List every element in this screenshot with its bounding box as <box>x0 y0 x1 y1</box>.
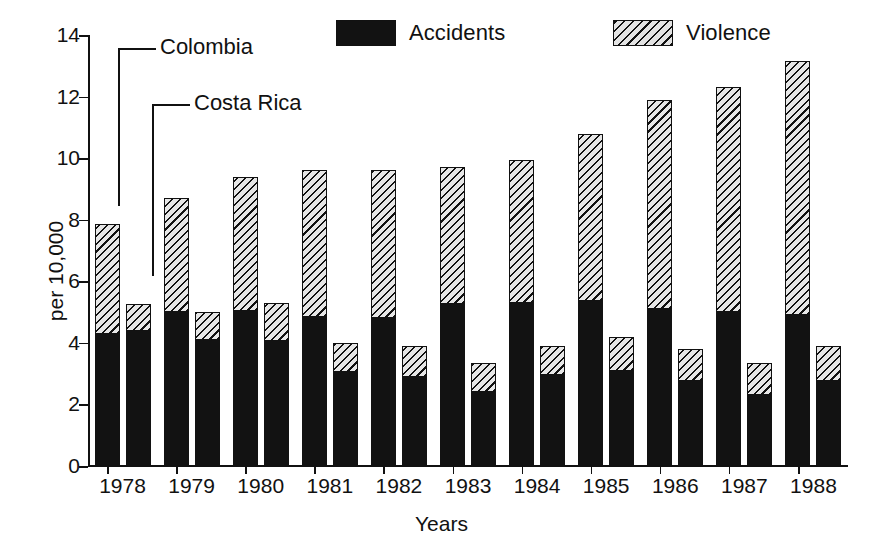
y-tick-label: 10 <box>57 146 80 170</box>
y-tick-label: 6 <box>68 269 80 293</box>
bar-costa-rica-1979 <box>195 312 220 466</box>
bar-segment-accidents <box>716 312 741 466</box>
x-tick-mark-1987 <box>729 466 731 474</box>
x-tick-mark-1981 <box>314 466 316 474</box>
bar-costa-rica-1987 <box>747 363 772 466</box>
x-tick-mark-1986 <box>660 466 662 474</box>
bar-segment-violence <box>578 134 603 302</box>
bar-costa-rica-1982 <box>402 346 427 466</box>
x-tick-mark-1984 <box>522 466 524 474</box>
x-tick-label-1983: 1983 <box>445 474 492 498</box>
bar-segment-violence <box>785 61 810 315</box>
bar-segment-accidents <box>540 375 565 466</box>
bar-segment-violence <box>233 177 258 311</box>
x-tick-label-1984: 1984 <box>514 474 561 498</box>
x-tick-mark-1978 <box>107 466 109 474</box>
bar-segment-violence <box>164 198 189 312</box>
bar-segment-accidents <box>195 340 220 466</box>
bar-segment-accidents <box>302 317 327 466</box>
bar-segment-accidents <box>233 311 258 466</box>
y-tick-mark <box>79 404 88 406</box>
bar-segment-violence <box>126 304 151 330</box>
x-tick-label-1986: 1986 <box>652 474 699 498</box>
bar-segment-violence <box>471 363 496 392</box>
bar-colombia-1988 <box>785 61 810 466</box>
x-tick-label-1988: 1988 <box>790 474 837 498</box>
y-tick-mark <box>79 35 88 37</box>
bar-segment-accidents <box>816 381 841 466</box>
y-tick-mark <box>79 220 88 222</box>
bar-colombia-1979 <box>164 198 189 466</box>
bar-segment-violence <box>302 170 327 316</box>
bar-segment-violence <box>333 343 358 372</box>
x-tick-mark-1982 <box>383 466 385 474</box>
bar-segment-accidents <box>440 304 465 466</box>
bar-segment-violence <box>609 337 634 371</box>
y-axis-title: per 10,000 <box>44 220 68 320</box>
bar-costa-rica-1984 <box>540 346 565 466</box>
bar-colombia-1978 <box>95 224 120 466</box>
annotation-costa-rica-leader-vertical <box>152 104 154 276</box>
x-tick-mark-1985 <box>591 466 593 474</box>
y-tick-label: 4 <box>68 331 80 355</box>
bar-colombia-1984 <box>509 160 534 466</box>
y-tick-label: 0 <box>68 454 80 478</box>
bar-segment-accidents <box>747 395 772 466</box>
bar-segment-accidents <box>264 341 289 466</box>
bar-chart: Accidents Violence 02468101214 per 10,00… <box>0 0 883 541</box>
x-tick-label-1979: 1979 <box>168 474 215 498</box>
bar-segment-accidents <box>402 377 427 466</box>
bar-segment-accidents <box>371 318 396 466</box>
x-tick-mark-1983 <box>453 466 455 474</box>
bar-segment-accidents <box>95 334 120 466</box>
bar-segment-accidents <box>678 381 703 466</box>
bar-segment-accidents <box>471 392 496 466</box>
bar-segment-violence <box>264 303 289 341</box>
bar-colombia-1985 <box>578 134 603 466</box>
bar-costa-rica-1983 <box>471 363 496 466</box>
bar-segment-violence <box>816 346 841 381</box>
y-tick-label: 14 <box>57 23 80 47</box>
bar-costa-rica-1978 <box>126 304 151 466</box>
bar-segment-violence <box>647 100 672 309</box>
bar-segment-violence <box>195 312 220 340</box>
y-tick-mark <box>79 343 88 345</box>
bar-colombia-1983 <box>440 167 465 466</box>
bar-segment-accidents <box>785 315 810 466</box>
bar-costa-rica-1981 <box>333 343 358 466</box>
x-tick-mark-1988 <box>798 466 800 474</box>
annotation-colombia-label: Colombia <box>160 34 253 60</box>
x-tick-label-1978: 1978 <box>99 474 146 498</box>
bar-costa-rica-1986 <box>678 349 703 466</box>
bar-segment-accidents <box>578 301 603 466</box>
annotation-costa-rica-leader-horizontal <box>152 104 190 106</box>
bar-segment-violence <box>509 160 534 303</box>
bar-segment-violence <box>540 346 565 375</box>
bar-segment-accidents <box>509 303 534 466</box>
x-tick-mark-1979 <box>176 466 178 474</box>
bar-segment-accidents <box>333 372 358 466</box>
bar-segment-violence <box>678 349 703 381</box>
bar-segment-accidents <box>647 309 672 466</box>
x-tick-label-1980: 1980 <box>237 474 284 498</box>
x-tick-label-1985: 1985 <box>583 474 630 498</box>
y-tick-label: 12 <box>57 85 80 109</box>
bar-colombia-1982 <box>371 170 396 466</box>
bar-segment-violence <box>95 224 120 333</box>
annotation-costa-rica-label: Costa Rica <box>194 90 302 116</box>
bar-segment-accidents <box>164 312 189 466</box>
x-tick-mark-1980 <box>245 466 247 474</box>
bar-colombia-1987 <box>716 87 741 466</box>
y-tick-mark <box>79 158 88 160</box>
bar-segment-accidents <box>609 371 634 466</box>
bar-colombia-1980 <box>233 177 258 466</box>
x-tick-label-1987: 1987 <box>721 474 768 498</box>
bar-segment-violence <box>371 170 396 318</box>
x-axis-line <box>88 465 848 467</box>
x-axis-title: Years <box>0 512 883 536</box>
annotation-colombia-leader-horizontal <box>118 48 156 50</box>
bar-segment-accidents <box>126 331 151 466</box>
bar-segment-violence <box>716 87 741 312</box>
y-tick-mark <box>79 281 88 283</box>
bar-colombia-1986 <box>647 100 672 466</box>
